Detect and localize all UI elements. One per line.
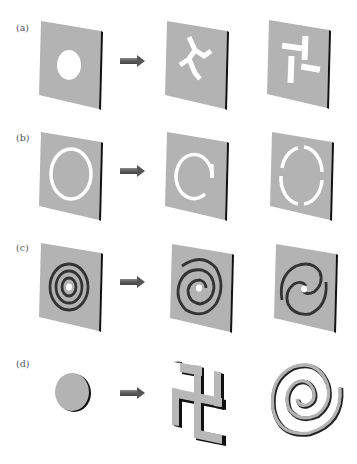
plate-segmented-ring-slot — [270, 132, 334, 221]
solid-disk-particle — [55, 373, 91, 412]
spiral-shaped-particle — [272, 365, 341, 435]
row-d — [55, 361, 341, 446]
figure-canvas — [0, 0, 357, 464]
plate-pinwheel-aperture — [267, 20, 331, 109]
plate-full-ring-slot — [39, 132, 103, 221]
plate-split-ring-slot — [165, 132, 229, 221]
arrow-icon — [120, 276, 145, 288]
row-b — [39, 132, 334, 221]
plate-three-arm-aperture — [165, 21, 229, 110]
arrow-icon — [120, 165, 145, 177]
plate-circular-hole — [39, 21, 103, 110]
plate-concentric-grooves — [39, 243, 103, 332]
swastika-shaped-particle — [172, 361, 226, 446]
arrow-icon — [120, 55, 145, 67]
row-c — [39, 243, 338, 333]
row-a — [39, 20, 331, 110]
plate-double-spiral-groove — [274, 244, 338, 333]
plate-single-spiral-groove — [170, 244, 234, 333]
arrow-icon — [120, 387, 145, 399]
